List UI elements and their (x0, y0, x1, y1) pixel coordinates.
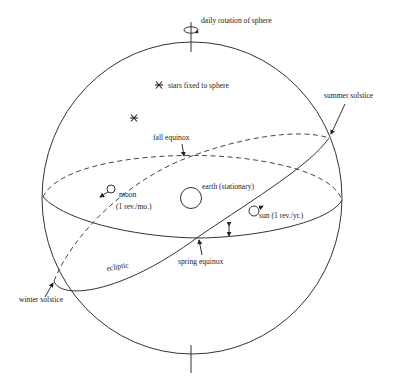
summer-solstice-label: summer solstice (324, 91, 374, 100)
ecliptic-label: ecliptic (106, 260, 130, 273)
moon-label: moon (119, 190, 137, 199)
celestial-equator-back (43, 155, 342, 200)
asterisk-star-icon (130, 115, 138, 122)
spring-equinox-label: spring equinox (178, 257, 224, 266)
spring-equinox-pointer (199, 240, 202, 255)
earth-icon (181, 188, 202, 209)
moon-icon (107, 185, 115, 193)
winter-solstice-label: winter solstice (19, 295, 64, 304)
rotation-label: daily rotation of sphere (201, 16, 272, 25)
asterisk-star-icon (155, 82, 163, 89)
summer-solstice-pointer (331, 104, 345, 134)
moon-rate-label: (1 rev./mo.) (116, 202, 152, 211)
fall-equinox-pointer (182, 144, 184, 156)
fall-equinox-label: fall equinox (153, 133, 190, 142)
sun-label: sun (1 rev./yr.) (259, 211, 304, 220)
sun-icon (249, 206, 259, 216)
earth-label: earth (stationary) (202, 182, 255, 191)
moon-direction-arrow (100, 192, 108, 197)
celestial-sphere-diagram: daily rotation of sphere stars fixed to … (0, 0, 399, 389)
stars-label: stars fixed to sphere (168, 81, 230, 90)
sun-direction-arrow (259, 206, 263, 208)
